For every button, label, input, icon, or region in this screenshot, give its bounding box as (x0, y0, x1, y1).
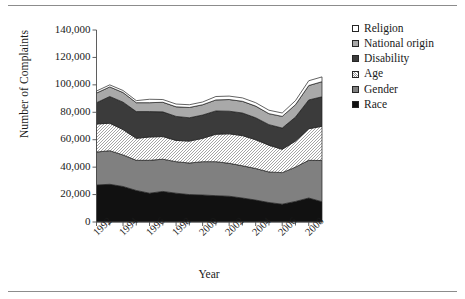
legend-swatch-icon (352, 25, 359, 32)
y-axis-tick-label: 140,000 (35, 23, 91, 35)
y-axis-title: Number of Complaints (18, 14, 30, 154)
legend-swatch-icon (352, 101, 359, 108)
legend-swatch-icon (352, 55, 359, 62)
y-axis-tick-label: 120,000 (35, 50, 91, 62)
y-axis-tick-label: 100,000 (35, 77, 91, 89)
x-axis-title: Year (96, 268, 322, 280)
legend-item-race[interactable]: Race (352, 97, 434, 112)
legend-item-disability[interactable]: Disability (352, 51, 434, 66)
area-bands-group (97, 77, 323, 222)
legend-swatch-icon (352, 40, 359, 47)
legend-item-label: Race (364, 99, 387, 111)
legend-swatch-icon (352, 71, 359, 78)
legend-item-label: Disability (364, 53, 409, 65)
y-axis-tick-label: 40,000 (35, 160, 91, 172)
y-axis-tick-label: 0 (35, 215, 91, 227)
legend-swatch-icon (352, 86, 359, 93)
legend-item-age[interactable]: Age (352, 67, 434, 82)
legend-item-label: Age (364, 68, 383, 80)
legend-item-label: National origin (364, 38, 434, 50)
y-axis-tick-label: 60,000 (35, 132, 91, 144)
legend-item-gender[interactable]: Gender (352, 82, 434, 97)
chart-legend: ReligionNational originDisabilityAgeGend… (352, 21, 434, 112)
legend-item-religion[interactable]: Religion (352, 21, 434, 36)
y-axis-tick-label: 20,000 (35, 187, 91, 199)
y-axis-tick-label: 80,000 (35, 105, 91, 117)
legend-item-national-origin[interactable]: National origin (352, 36, 434, 51)
legend-item-label: Religion (364, 23, 404, 35)
legend-item-label: Gender (364, 84, 398, 96)
figure-container: Number of Complaints Year 020,00040,0006… (0, 0, 465, 299)
